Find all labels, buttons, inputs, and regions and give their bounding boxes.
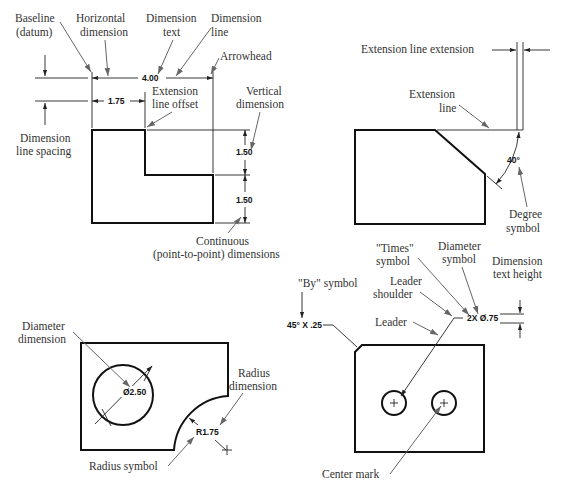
label-dimension-text: Dimension [146, 12, 197, 24]
label-leader: Leader [375, 316, 407, 328]
label-extension-line-offset: Extension [152, 85, 198, 97]
label-degree-symbol: Degree [509, 208, 542, 221]
dimension-text-radius-1-75: R1.75 [196, 427, 219, 437]
svg-text:dimension: dimension [236, 98, 284, 110]
label-dimension-line: Dimension [211, 12, 262, 24]
svg-text:dimension: dimension [229, 380, 277, 392]
label-baseline: Baseline [15, 12, 55, 24]
svg-text:(point-to-point) dimensions: (point-to-point) dimensions [153, 248, 280, 261]
dimension-text-1-50-upper: 1.50 [236, 147, 253, 157]
label-by-symbol: "By" symbol [298, 277, 358, 290]
svg-text:line: line [211, 26, 228, 38]
svg-text:line spacing: line spacing [16, 145, 71, 158]
label-radius-symbol: Radius symbol [89, 460, 158, 473]
label-center-mark: Center mark [322, 468, 379, 480]
svg-text:dimension: dimension [80, 26, 128, 38]
angle-text-40-degrees: 40° [507, 155, 520, 165]
dimension-text-4-00: 4.00 [142, 73, 159, 83]
label-diameter-dimension: Diameter [22, 320, 65, 332]
label-continuous-dimensions: Continuous [196, 235, 250, 247]
label-vertical-dimension: Vertical [246, 85, 282, 97]
label-dimension-line-spacing: Dimension [20, 132, 71, 144]
object-outline-plate-with-holes [355, 345, 484, 452]
label-horizontal-dimension: Horizontal [76, 12, 125, 24]
label-extension-line: Extension [409, 88, 455, 100]
svg-text:symbol: symbol [506, 222, 540, 235]
svg-text:(datum): (datum) [16, 26, 53, 39]
label-radius-dimension: Radius [238, 367, 270, 379]
label-diameter-symbol: Diameter [438, 240, 481, 252]
panel-bottom-left: Ø2.50 R1.75 Diameter dimension Radius di… [18, 320, 277, 473]
label-arrowhead: Arrowhead [220, 50, 272, 62]
dimensioning-diagram: 4.00 1.75 1.50 1.50 Baseline (datum) Hor… [0, 0, 563, 494]
svg-text:symbol: symbol [376, 255, 410, 268]
label-dimension-text-height: Dimension [492, 255, 543, 267]
panel-bottom-right: 45° X .25 2X Ø.75 "By" symbol "Times" sy… [287, 240, 543, 480]
panel-top-right: 40° Extension line extension Extension l… [355, 42, 550, 235]
svg-text:line: line [439, 102, 456, 114]
chamfer-note: 45° X .25 [287, 320, 322, 330]
label-times-symbol: "Times" [376, 242, 414, 254]
svg-text:text height: text height [493, 268, 543, 281]
dimension-text-1-75: 1.75 [108, 96, 125, 106]
center-mark-left [390, 399, 398, 407]
center-mark-right [440, 399, 448, 407]
svg-text:symbol: symbol [442, 253, 476, 266]
panel-top-left: 4.00 1.75 1.50 1.50 Baseline (datum) Hor… [15, 12, 284, 261]
object-outline-chamfered-block [355, 130, 485, 224]
svg-text:dimension: dimension [18, 333, 66, 345]
hole-note: 2X Ø.75 [467, 313, 498, 323]
svg-text:line offset: line offset [152, 98, 199, 110]
dimension-text-1-50-lower: 1.50 [236, 195, 253, 205]
label-leader-shoulder: Leader [390, 275, 422, 287]
svg-text:text: text [163, 26, 181, 38]
object-outline-l-shape [92, 130, 213, 223]
dimension-text-diameter-2-50: Ø2.50 [123, 387, 146, 397]
label-extension-line-extension: Extension line extension [361, 43, 474, 55]
svg-text:shoulder: shoulder [373, 288, 413, 300]
